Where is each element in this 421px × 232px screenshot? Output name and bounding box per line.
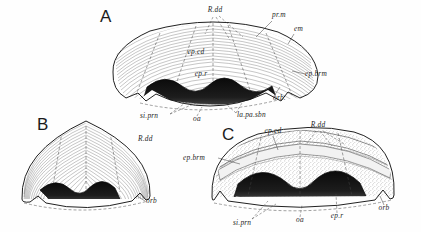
- label-a-rdd: R.dd: [207, 5, 223, 14]
- label-a-la-pa-sbn: la.pa.sbn: [237, 110, 266, 119]
- figure-c-letter: C: [222, 125, 234, 144]
- label-a-em: em: [294, 24, 303, 33]
- label-a-si-prn: si.prn: [140, 111, 158, 120]
- label-c-ep-brm: ep.brm: [183, 153, 205, 162]
- plate-canvas: A R.dd pr.m em ep.cd ep.r ep.brm orb. si…: [0, 0, 421, 232]
- label-c-ep-r: ep.r: [331, 211, 344, 220]
- label-a-ep-cd: ep.cd: [188, 47, 205, 56]
- figure-c-shading: [205, 120, 405, 211]
- figure-a: A R.dd pr.m em ep.cd ep.r ep.brm orb. si…: [100, 5, 330, 123]
- label-c-oa: oa: [296, 215, 304, 224]
- label-a-oa: oa: [193, 114, 201, 123]
- label-a-ep-r: ep.r: [195, 69, 208, 78]
- label-c-si-prn: si.prn: [233, 218, 251, 227]
- figure-c: C ep.cd R.dd ep.brm orb si.prn oa ep.r: [183, 120, 405, 227]
- figure-b: B R.dd orb: [18, 115, 158, 210]
- figure-a-letter: A: [100, 7, 112, 26]
- illustration-plate: A R.dd pr.m em ep.cd ep.r ep.brm orb. si…: [0, 0, 421, 232]
- label-b-rdd: R.dd: [137, 134, 153, 143]
- label-a-ep-brm: ep.brm: [305, 69, 327, 78]
- figure-b-letter: B: [37, 115, 48, 134]
- label-c-ep-cd: ep.cd: [265, 126, 282, 135]
- label-c-rdd: R.dd: [310, 120, 326, 129]
- figure-b-base-dash: [24, 201, 148, 210]
- label-a-orb: orb.: [273, 93, 286, 102]
- label-c-orb: orb: [379, 203, 390, 212]
- label-a-prm: pr.m: [271, 10, 286, 19]
- label-b-orb: orb: [146, 196, 157, 205]
